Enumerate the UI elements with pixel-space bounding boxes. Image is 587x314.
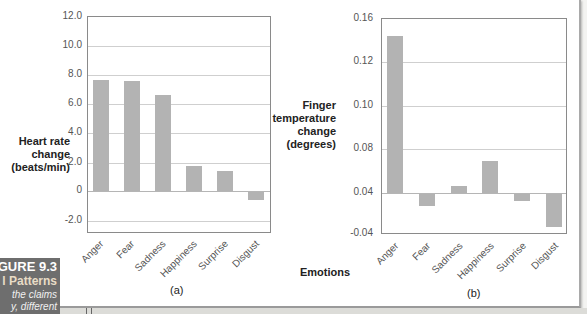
ytick: 8.0 xyxy=(42,68,82,79)
ytick: 0.16 xyxy=(333,12,373,23)
figure-frame: Heart rate change (beats/min) 12.0 10.0 … xyxy=(0,0,581,308)
panel-b-plot-area xyxy=(381,18,567,234)
gridline xyxy=(88,104,270,105)
ytick: -0.04 xyxy=(333,227,373,238)
xtick-label: Fear xyxy=(410,240,432,262)
ylabel-line: (degrees) xyxy=(270,138,336,151)
figure-number: GURE 9.3 xyxy=(0,259,57,274)
figure-caption-box: GURE 9.3 l Patterns the claims y, differ… xyxy=(0,258,60,314)
bar-sadness xyxy=(451,186,467,193)
ytick: 4.0 xyxy=(42,126,82,137)
bar-fear xyxy=(124,81,140,191)
ytick: 0.12 xyxy=(333,55,373,66)
baseline xyxy=(382,193,566,194)
page-strip xyxy=(0,308,587,314)
gridline xyxy=(382,62,566,63)
panel-a-plot-area xyxy=(87,16,271,233)
xtick-label: Disgust xyxy=(528,240,559,271)
xtick-label: Surprise xyxy=(494,240,528,274)
xtick-label: Anger xyxy=(374,240,401,267)
figure-caption-line: y, different xyxy=(11,301,57,312)
ylabel-line: change xyxy=(270,125,336,138)
ytick: -2.0 xyxy=(42,214,82,225)
ylabel-line: Finger xyxy=(270,99,336,112)
bar-surprise xyxy=(514,194,530,201)
panel-b-ylabel: Finger temperature change (degrees) xyxy=(270,99,336,151)
ytick: 0.10 xyxy=(333,99,373,110)
bar-anger xyxy=(93,80,109,191)
xtick-label: Disgust xyxy=(229,238,260,269)
gridline xyxy=(88,221,270,222)
bar-happiness xyxy=(482,161,498,193)
zero-line xyxy=(88,191,270,192)
gridline xyxy=(88,133,270,134)
ytick: 0.04 xyxy=(333,186,373,197)
panel-b-label: (b) xyxy=(467,287,480,299)
bar-sadness xyxy=(155,95,171,191)
bar-disgust xyxy=(546,194,562,227)
gridline xyxy=(382,106,566,107)
panel-a-label: (a) xyxy=(170,284,183,296)
gridline xyxy=(88,46,270,47)
ytick: 6.0 xyxy=(42,97,82,108)
divider xyxy=(91,308,92,314)
bar-happiness xyxy=(186,166,202,191)
xtick-label: Anger xyxy=(79,238,106,265)
ytick: 0.08 xyxy=(333,142,373,153)
xtick-label: Fear xyxy=(114,238,136,260)
bar-surprise xyxy=(217,171,233,191)
ytick: 10.0 xyxy=(42,39,82,50)
divider xyxy=(86,308,87,314)
ytick: 0 xyxy=(42,184,82,195)
gridline xyxy=(88,75,270,76)
ytick: 12.0 xyxy=(42,10,82,21)
gridline xyxy=(88,163,270,164)
bar-disgust xyxy=(248,192,264,200)
figure-title: l Patterns xyxy=(2,274,57,288)
bar-anger xyxy=(387,36,403,193)
panel-a-ylabel: Heart rate change (beats/min) xyxy=(10,135,70,174)
ylabel-line: temperature xyxy=(270,112,336,125)
x-axis-title: Emotions xyxy=(300,266,350,279)
ytick: 2.0 xyxy=(42,156,82,167)
figure-caption-line: the claims xyxy=(12,289,57,300)
xtick-label: Surprise xyxy=(196,238,230,272)
gridline xyxy=(382,149,566,150)
bar-fear xyxy=(419,194,435,206)
